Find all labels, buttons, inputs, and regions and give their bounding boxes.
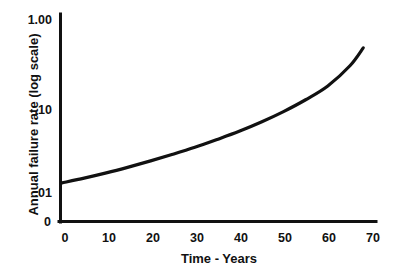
x-tick-label-20: 20 (146, 232, 160, 245)
y-tick-label-2: .10 (8, 104, 52, 117)
x-tick-label-0: 0 (62, 232, 69, 245)
y-tick-label-3: .01 (8, 187, 52, 200)
x-tick-label-60: 60 (322, 232, 336, 245)
y-tick-label-1: 1.00 (8, 14, 52, 27)
failure-rate-curve (62, 48, 363, 183)
x-tick-label-40: 40 (234, 232, 248, 245)
chart-figure: Annual failure rate (log scale) Time - Y… (0, 0, 393, 274)
x-tick-label-70: 70 (366, 232, 380, 245)
x-tick-label-50: 50 (278, 232, 292, 245)
origin-zero-label: 0 (44, 216, 51, 229)
x-tick-label-10: 10 (102, 232, 116, 245)
x-axis-title: Time - Years (60, 252, 378, 265)
x-tick-label-30: 30 (190, 232, 204, 245)
